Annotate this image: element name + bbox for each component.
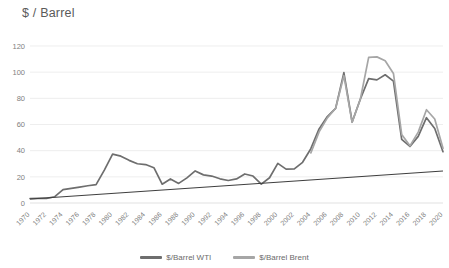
x-axis-tick-label: 2002 <box>279 211 295 227</box>
x-axis-tick-label: 1994 <box>213 211 229 227</box>
x-axis-tick-label: 2004 <box>296 211 312 227</box>
x-axis-tick-label: 1992 <box>196 211 212 227</box>
y-axis-tick-label: 0 <box>21 199 25 208</box>
legend-item[interactable]: $/Barrel WTI <box>140 253 211 262</box>
oil-price-chart: $ / Barrel 02040608010012019701972197419… <box>0 0 449 268</box>
x-axis-tick-label: 1970 <box>15 211 31 227</box>
y-axis-tick-label: 100 <box>12 68 25 77</box>
x-axis-tick-label: 1996 <box>230 211 246 227</box>
y-axis-tick-label: 120 <box>12 42 25 51</box>
x-axis-tick-label: 2020 <box>428 211 444 227</box>
x-axis-tick-label: 2010 <box>345 211 361 227</box>
chart-legend: $/Barrel WTI$/Barrel Brent <box>0 253 449 262</box>
y-axis-tick-label: 60 <box>17 120 25 129</box>
chart-plot-area: 0204060801001201970197219741976197819801… <box>0 0 449 268</box>
series-line <box>311 57 443 153</box>
x-axis-tick-label: 2012 <box>362 211 378 227</box>
x-axis-tick-label: 1986 <box>147 211 163 227</box>
x-axis-tick-label: 1978 <box>81 211 97 227</box>
x-axis-tick-label: 2000 <box>263 211 279 227</box>
x-axis-tick-label: 1974 <box>48 211 64 227</box>
y-axis-tick-label: 20 <box>17 173 25 182</box>
x-axis-tick-label: 1982 <box>114 211 130 227</box>
legend-item[interactable]: $/Barrel Brent <box>233 253 308 262</box>
legend-swatch-icon <box>233 256 255 259</box>
x-axis-tick-label: 1998 <box>246 211 262 227</box>
x-axis-tick-label: 1990 <box>180 211 196 227</box>
y-axis-tick-label: 40 <box>17 146 25 155</box>
legend-swatch-icon <box>140 256 162 259</box>
x-axis-tick-label: 2018 <box>411 211 427 227</box>
x-axis-tick-label: 1972 <box>31 211 47 227</box>
x-axis-tick-label: 1976 <box>64 211 80 227</box>
x-axis-tick-label: 1980 <box>97 211 113 227</box>
series-line <box>30 73 443 199</box>
x-axis-tick-label: 1984 <box>130 211 146 227</box>
legend-label: $/Barrel WTI <box>166 253 211 262</box>
legend-label: $/Barrel Brent <box>259 253 308 262</box>
y-axis-tick-label: 80 <box>17 94 25 103</box>
x-axis-tick-label: 1988 <box>163 211 179 227</box>
x-axis-tick-label: 2008 <box>329 211 345 227</box>
x-axis-tick-label: 2016 <box>395 211 411 227</box>
x-axis-tick-label: 2014 <box>378 211 394 227</box>
x-axis-tick-label: 2006 <box>312 211 328 227</box>
